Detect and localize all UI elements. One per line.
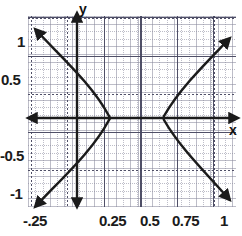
plot-area bbox=[28, 16, 236, 207]
x-axis-label: x bbox=[229, 122, 237, 138]
x-tick-label-0.75: 0.75 bbox=[172, 212, 199, 229]
x-tick-label-neg.25: -.25 bbox=[23, 212, 47, 229]
y-axis-label: y bbox=[79, 1, 87, 17]
x-tick-label-0.25: 0.25 bbox=[99, 212, 126, 229]
y-tick-label-neg0.5: -0.5 bbox=[0, 147, 24, 164]
graph-figure: y x 1 0.5 -0.5 -1 -.25 0.25 0.5 0.75 1 bbox=[0, 0, 242, 236]
major-gridlines bbox=[28, 16, 236, 207]
y-tick-label-neg1: -1 bbox=[10, 185, 22, 202]
x-tick-label-1: 1 bbox=[220, 212, 228, 229]
y-tick-label-1: 1 bbox=[17, 33, 25, 50]
x-tick-label-0.5: 0.5 bbox=[140, 212, 159, 229]
y-tick-label-0.5: 0.5 bbox=[1, 71, 20, 88]
